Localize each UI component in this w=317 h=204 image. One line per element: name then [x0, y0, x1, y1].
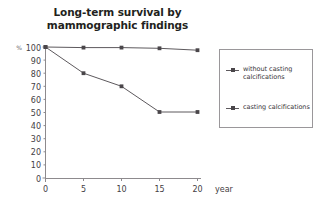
data-point-marker [158, 46, 162, 50]
y-tick-label-30: 30 [31, 135, 41, 144]
y-tick-label-10: 10 [31, 161, 41, 170]
y-tick-label-0: 0 [36, 175, 41, 184]
y-axis-percent-symbol: % [16, 44, 22, 51]
y-tick-label-40: 40 [31, 122, 41, 131]
y-tick-label-80: 80 [31, 70, 41, 79]
x-tick-label-15: 15 [154, 185, 164, 194]
x-tick-label-5: 5 [81, 185, 86, 194]
series-line-casting [46, 47, 198, 112]
series-without-casting-calcifications [44, 45, 200, 52]
x-axis-ticks [46, 179, 198, 183]
x-axis-label: year [215, 185, 234, 194]
series-casting-calcifications [44, 45, 200, 114]
x-tick-label-0: 0 [43, 185, 48, 194]
chart-legend: without castingcalcifications casting ca… [219, 49, 313, 128]
x-tick-label-10: 10 [116, 185, 126, 194]
data-point-marker [158, 110, 162, 114]
legend-line-marker-icon [226, 104, 239, 113]
data-point-marker [120, 84, 124, 88]
data-point-marker [120, 46, 124, 50]
x-tick-label-20: 20 [192, 185, 202, 194]
y-tick-label-60: 60 [31, 96, 41, 105]
y-tick-label-100: 100 [26, 44, 41, 53]
legend-item-label: casting calcifications [243, 103, 310, 111]
y-tick-label-50: 50 [31, 109, 41, 118]
legend-label-line-2: calcifications [243, 73, 285, 81]
chart-figure: Long-term survival by mammographic findi… [0, 0, 317, 204]
data-point-marker [82, 46, 86, 50]
data-point-marker [82, 71, 86, 75]
data-point-marker [44, 45, 48, 49]
data-point-marker [196, 48, 200, 52]
data-point-marker [196, 110, 200, 114]
y-tick-label-90: 90 [31, 57, 41, 66]
legend-line-marker-icon [226, 66, 239, 75]
legend-item-casting-calcifications: casting calcifications [226, 103, 310, 113]
y-tick-label-70: 70 [31, 83, 41, 92]
legend-item-without-casting-calcifications: without castingcalcifications [226, 65, 292, 81]
legend-label-line-1: without casting [243, 65, 292, 73]
y-tick-label-20: 20 [31, 148, 41, 157]
legend-item-label: without castingcalcifications [243, 65, 292, 81]
